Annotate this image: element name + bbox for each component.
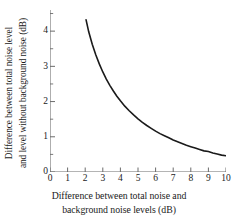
y-tick-label: 3 (36, 62, 48, 72)
y-tick-label: 1 (36, 132, 48, 142)
y-axis-tick-labels: 01234 (32, 0, 48, 186)
x-axis-label-line-2: background noise levels (dB) (0, 203, 238, 217)
axes (50, 10, 226, 172)
y-axis-label-line-2: and level without background noise (dB) (16, 18, 30, 168)
data-series (86, 20, 226, 156)
x-tick-label: 10 (216, 174, 236, 184)
y-axis-label-line-1: Difference between total noise level (3, 18, 17, 168)
series-line (86, 20, 226, 156)
chart-figure: Difference between total noise level and… (0, 0, 238, 222)
plot-svg (50, 10, 226, 172)
y-tick-label: 4 (36, 26, 48, 36)
x-axis-tick-labels: 012345678910 (0, 174, 238, 188)
plot-area (50, 10, 226, 172)
x-axis-label: Difference between total noise and backg… (0, 189, 238, 216)
y-axis-label: Difference between total noise level and… (0, 0, 32, 186)
x-axis-label-line-1: Difference between total noise and (0, 189, 238, 203)
y-tick-label: 2 (36, 97, 48, 107)
